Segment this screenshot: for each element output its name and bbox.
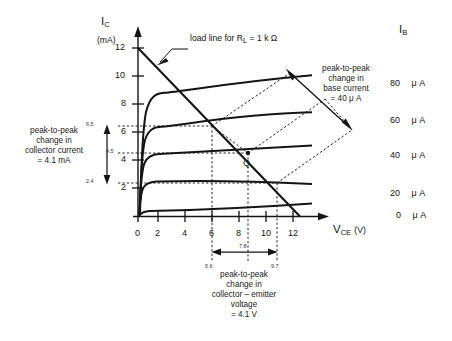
ib-label-0: 0 μ A xyxy=(396,203,426,223)
ib-label-20: 20 μ A xyxy=(390,181,425,201)
load-line-annotation: load line for RL = 1 k Ω xyxy=(190,33,277,45)
curve-ib-60ua xyxy=(140,112,312,215)
ib-label-80: 80 μ A xyxy=(390,71,425,91)
x-tick-label-10: 10 xyxy=(261,228,271,239)
x-tick-label-8: 8 xyxy=(236,228,241,239)
axes-group xyxy=(133,26,329,222)
x-axis-title: VCE (V) xyxy=(333,222,366,237)
x-tick-label-12: 12 xyxy=(288,228,298,239)
ib-label-40: 40 μ A xyxy=(390,143,425,163)
ic-swing-line1: peak-to-peak xyxy=(6,126,102,136)
y-axis-arrow xyxy=(134,26,141,37)
ic-swing-line3: collector current xyxy=(6,146,102,156)
y-tick-label-8: 8 xyxy=(121,98,126,109)
ib-swing-line3: base current xyxy=(306,84,386,94)
q-point-marker xyxy=(246,151,250,155)
vce-swing-line1: peak-to-peak xyxy=(180,270,308,280)
vce-swing-line3: collector – emitter xyxy=(180,290,308,300)
ib-swing-line2: change in xyxy=(306,74,386,84)
ib-swing-annotation: peak-to-peak change in base current = 40… xyxy=(306,64,386,104)
marker-vce-5p6: 5.6 xyxy=(205,263,213,270)
marker-vce-7p8: 7.8 xyxy=(239,243,247,250)
x-tick-label-6: 6 xyxy=(209,228,214,239)
y-tick-label-12: 12 xyxy=(115,42,125,53)
y-tick-label-6: 6 xyxy=(121,126,126,137)
ic-swing-line2: change in xyxy=(6,136,102,146)
y-axis-title: IC xyxy=(101,14,110,29)
vce-swing-annotation: peak-to-peak change in collector – emitt… xyxy=(180,270,308,320)
x-tick-label-4: 4 xyxy=(182,228,187,239)
y-tick-label-2: 2 xyxy=(121,182,126,193)
vce-swing-arrow xyxy=(212,249,278,256)
marker-ic-4p5: 4.5 xyxy=(106,148,114,155)
marker-ic-2p4: 2.4 xyxy=(86,178,94,185)
load-line-callout-leader xyxy=(157,49,189,66)
curve-ib-80ua xyxy=(140,75,312,215)
ib-swing-line4: = 40 μ A xyxy=(306,94,386,104)
q-point-label: Q xyxy=(243,158,250,169)
y-axis-unit: (mA) xyxy=(97,35,116,45)
ic-swing-annotation: peak-to-peak change in collector current… xyxy=(6,126,102,166)
load-line xyxy=(138,48,300,217)
vce-swing-line2: change in xyxy=(180,280,308,290)
y-tick-label-4: 4 xyxy=(121,154,126,165)
vce-swing-line4: voltage xyxy=(180,300,308,310)
y-tick-label-10: 10 xyxy=(115,70,125,81)
marker-vce-9p7: 9.7 xyxy=(271,263,279,270)
vce-swing-line5: = 4.1 V xyxy=(180,310,308,320)
x-axis-arrow xyxy=(318,213,329,220)
x-tick-label-2: 2 xyxy=(155,228,160,239)
transistor-load-line-chart: IC (mA) VCE (V) IB 12 10 8 6 4 2 0 2 4 6… xyxy=(0,0,452,341)
ib-swing-line1: peak-to-peak xyxy=(306,64,386,74)
ib-legend-title: IB xyxy=(399,22,407,37)
ic-swing-line4: = 4.1 mA xyxy=(6,156,102,166)
curve-ib-0ua xyxy=(139,204,312,217)
ib-label-60: 60 μ A xyxy=(390,108,425,128)
ib-characteristic-curves xyxy=(139,75,312,216)
x-tick-label-0: 0 xyxy=(135,228,140,239)
